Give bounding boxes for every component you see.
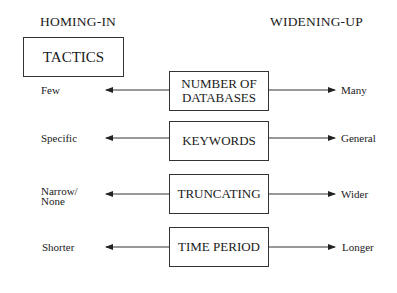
label-longer: Longer (342, 242, 374, 253)
box-number-of-databases: NUMBER OF DATABASES (169, 71, 269, 111)
box-truncating-label: TRUNCATING (177, 187, 260, 201)
box-truncating: TRUNCATING (169, 174, 269, 214)
box-time-period-label: TIME PERIOD (178, 240, 260, 254)
label-specific: Specific (41, 133, 77, 144)
box-number-of-databases-label: NUMBER OF DATABASES (181, 77, 257, 105)
label-wider: Wider (341, 189, 368, 200)
box-keywords-label: KEYWORDS (182, 134, 256, 148)
label-many: Many (341, 85, 367, 96)
label-few: Few (41, 85, 60, 96)
label-shorter: Shorter (42, 242, 74, 253)
box-keywords: KEYWORDS (169, 121, 269, 161)
label-general: General (341, 133, 376, 144)
label-narrow-none: Narrow/ None (41, 186, 78, 206)
box-time-period: TIME PERIOD (169, 227, 269, 267)
